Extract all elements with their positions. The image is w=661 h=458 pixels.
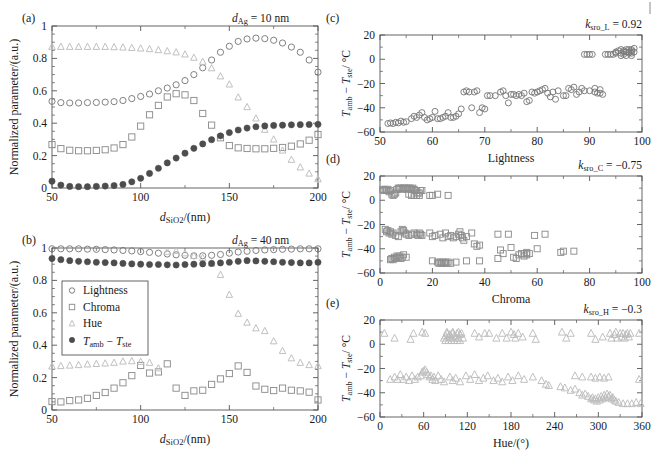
marker-open-triangle xyxy=(279,147,286,153)
panel-e-xlabel: Hue/(°) xyxy=(493,436,529,450)
ytick-label: −20 xyxy=(357,219,375,231)
marker-filled-circle xyxy=(146,261,152,267)
marker-open-square xyxy=(84,148,90,154)
marker-open-circle xyxy=(146,249,152,255)
marker-open-circle xyxy=(226,43,232,49)
marker-open-circle xyxy=(253,35,259,41)
marker-filled-circle xyxy=(102,259,108,265)
marker-filled-circle xyxy=(173,155,179,161)
marker-filled-circle xyxy=(111,182,117,188)
ytick-label: 20 xyxy=(364,29,376,41)
marker-open-circle xyxy=(432,108,438,114)
marker-open-triangle xyxy=(484,372,491,379)
marker-open-triangle xyxy=(84,361,91,367)
marker-open-triangle xyxy=(208,65,215,71)
marker-open-square xyxy=(129,373,135,379)
marker-open-square xyxy=(226,142,232,148)
marker-open-square xyxy=(129,134,135,140)
marker-open-square xyxy=(164,94,170,100)
series-layer-d xyxy=(380,185,577,266)
ytick-label: 0.4 xyxy=(33,117,48,129)
marker-open-circle xyxy=(306,57,312,63)
ytick-label: −60 xyxy=(357,126,375,138)
marker-open-triangle xyxy=(391,334,398,341)
marker-open-circle xyxy=(271,37,277,43)
marker-open-triangle xyxy=(288,355,295,361)
series-t-amb---t-ste-b xyxy=(49,255,321,268)
ytick-label: 20 xyxy=(364,314,376,326)
marker-filled-circle xyxy=(164,160,170,166)
marker-open-square xyxy=(288,387,294,393)
ytick-label: 0 xyxy=(369,194,375,206)
panel-d-ylabel: Tamb − Tste/ °C xyxy=(340,191,354,258)
marker-open-square xyxy=(84,395,90,401)
panel-e-ylabel: Tamb − Tste/ °C xyxy=(340,335,354,402)
panel-d-xlabel: Chroma xyxy=(492,292,531,306)
marker-filled-circle xyxy=(120,181,126,187)
marker-open-triangle xyxy=(93,43,100,49)
marker-open-square xyxy=(534,246,540,252)
marker-open-circle xyxy=(173,252,179,258)
marker-filled-circle xyxy=(138,261,144,267)
marker-open-triangle xyxy=(605,373,612,380)
marker-open-circle xyxy=(146,91,152,97)
marker-filled-circle xyxy=(297,122,303,128)
marker-open-square xyxy=(102,389,108,395)
panel-label-b: (b) xyxy=(22,233,36,247)
marker-filled-circle xyxy=(253,124,259,130)
panel-b-annotation: dAg = 40 nm xyxy=(232,234,289,248)
marker-open-square xyxy=(262,386,268,392)
xtick-label: 0 xyxy=(377,420,383,432)
marker-open-square xyxy=(297,388,303,394)
marker-filled-circle xyxy=(306,260,312,266)
marker-filled-circle xyxy=(253,258,259,264)
xtick-label: 200 xyxy=(309,191,327,203)
marker-filled-circle xyxy=(164,262,170,268)
xtick-label: 200 xyxy=(309,413,327,425)
marker-open-triangle xyxy=(262,327,269,333)
xtick-label: 60 xyxy=(427,135,439,147)
marker-open-triangle xyxy=(297,359,304,365)
marker-open-circle xyxy=(288,246,294,252)
marker-filled-circle xyxy=(49,255,55,261)
marker-open-square xyxy=(209,381,215,387)
marker-open-square xyxy=(146,112,152,118)
marker-open-triangle xyxy=(306,170,313,176)
xtick-label: 100 xyxy=(633,135,651,147)
marker-open-square xyxy=(191,388,197,394)
marker-open-circle xyxy=(235,249,241,255)
marker-open-square xyxy=(271,145,277,151)
marker-open-triangle xyxy=(253,115,260,121)
xtick-label: 50 xyxy=(374,135,386,147)
series-layer-a xyxy=(49,35,322,190)
marker-open-square xyxy=(271,387,277,393)
marker-filled-circle xyxy=(146,170,152,176)
ytick-label: −20 xyxy=(357,363,375,375)
marker-open-triangle xyxy=(155,365,162,371)
marker-filled-circle xyxy=(288,259,294,265)
marker-filled-circle xyxy=(191,261,197,267)
marker-open-triangle xyxy=(270,338,277,344)
marker-open-triangle xyxy=(226,291,233,297)
marker-open-circle xyxy=(279,40,285,46)
xtick-label: 360 xyxy=(633,420,651,432)
marker-open-triangle xyxy=(58,43,65,49)
marker-open-circle xyxy=(553,96,559,102)
marker-open-triangle xyxy=(111,43,118,49)
marker-open-circle xyxy=(76,246,82,252)
marker-open-triangle xyxy=(529,329,536,336)
marker-open-triangle xyxy=(75,361,82,367)
panel-a-ylabel: Normalized parameter/(a.u.) xyxy=(7,39,21,175)
marker-filled-circle xyxy=(58,182,64,188)
marker-open-circle xyxy=(182,77,188,83)
marker-filled-circle xyxy=(129,179,135,185)
marker-open-triangle xyxy=(120,358,127,364)
marker-filled-circle xyxy=(49,178,55,184)
xtick-label: 40 xyxy=(479,276,491,288)
marker-filled-circle xyxy=(67,183,73,189)
marker-filled-circle xyxy=(120,260,126,266)
xtick-label: 100 xyxy=(132,413,150,425)
marker-open-square xyxy=(164,361,170,367)
marker-open-triangle xyxy=(471,371,478,378)
marker-open-square xyxy=(542,231,548,237)
